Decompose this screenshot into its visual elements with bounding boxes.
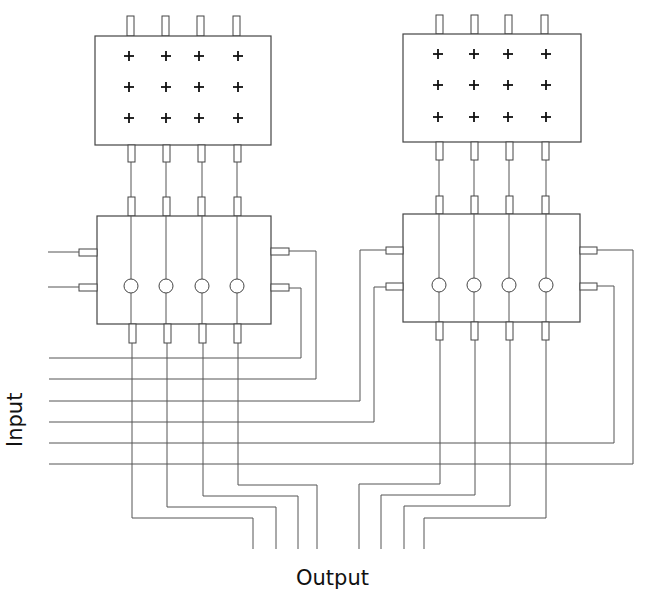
output-label: Output [296,566,369,590]
circle-icon [467,278,481,292]
left-module [79,16,289,343]
right-switch-box [403,214,580,322]
circle-icon [195,279,209,293]
left-switch-box [97,216,271,324]
right-array-top-pins [436,15,548,34]
left-array-box [95,36,271,145]
right-array-bottom-pins [436,142,549,160]
right-switch-top-pins [436,196,549,214]
left-switch-bottom-pins [129,324,241,343]
circle-icon [502,278,516,292]
circle-icon [432,278,446,292]
circle-icon [539,278,553,292]
circle-icon [124,279,138,293]
left-array-bottom-pins [128,145,241,162]
right-array-box [403,34,581,142]
right-switch-bottom-pins [436,322,549,340]
output-wires [132,340,546,549]
right-interconnect-wires [439,160,546,196]
circle-icon [230,279,244,293]
left-interconnect-wires [131,162,237,197]
diagram-canvas [0,0,647,607]
left-switch-top-pins [128,197,241,216]
left-array-top-pins [127,16,240,36]
circle-icon [159,279,173,293]
input-label: Input [3,393,27,447]
right-module [386,15,597,340]
